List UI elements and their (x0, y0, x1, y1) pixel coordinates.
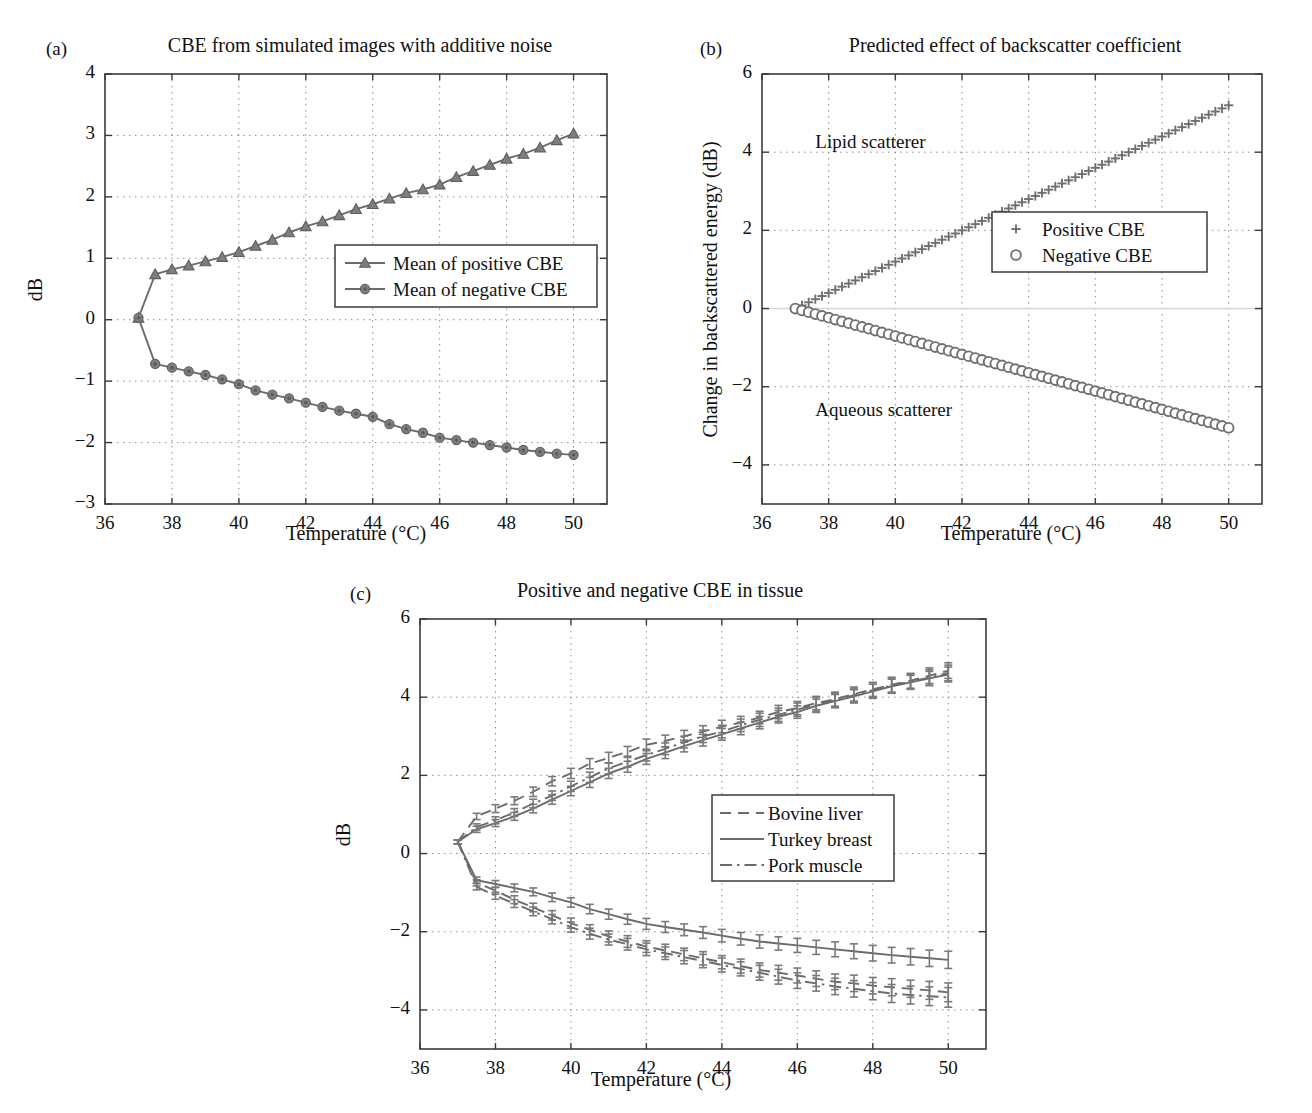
x-tick-label: 50 (550, 512, 598, 534)
x-tick-label: 46 (1071, 512, 1119, 534)
panel-a-title: CBE from simulated images with additive … (110, 34, 610, 57)
y-tick-label: 4 (51, 61, 95, 83)
svg-text:Aqueous scatterer: Aqueous scatterer (815, 399, 952, 420)
y-tick-label: 2 (51, 184, 95, 206)
x-tick-label: 46 (773, 1057, 821, 1079)
svg-text:Mean of negative CBE: Mean of negative CBE (393, 279, 568, 300)
panel-c-label: (c) (350, 583, 371, 605)
x-tick-label: 44 (1005, 512, 1053, 534)
y-tick-label: −1 (51, 368, 95, 390)
x-tick-label: 36 (396, 1057, 444, 1079)
y-tick-label: −4 (708, 452, 752, 474)
panel-c-ylabel: dB (332, 795, 355, 875)
panel-c-title: Positive and negative CBE in tissue (410, 579, 910, 602)
y-tick-label: 0 (51, 307, 95, 329)
x-tick-label: 44 (698, 1057, 746, 1079)
svg-text:Positive CBE: Positive CBE (1042, 219, 1145, 240)
svg-text:Negative CBE: Negative CBE (1042, 245, 1152, 266)
x-tick-label: 38 (805, 512, 853, 534)
y-tick-label: 4 (366, 684, 410, 706)
y-tick-label: −2 (708, 374, 752, 396)
y-tick-label: 6 (366, 606, 410, 628)
panel-b-title: Predicted effect of backscatter coeffici… (765, 34, 1265, 57)
x-tick-label: 42 (622, 1057, 670, 1079)
y-tick-label: 3 (51, 122, 95, 144)
x-tick-label: 50 (924, 1057, 972, 1079)
svg-text:Lipid scatterer: Lipid scatterer (815, 131, 926, 152)
x-tick-label: 36 (738, 512, 786, 534)
panel-b-label: (b) (700, 38, 722, 60)
panel-b-ylabel: Change in backscattered energy (dB) (699, 125, 722, 455)
x-tick-label: 40 (871, 512, 919, 534)
y-tick-label: 2 (708, 217, 752, 239)
x-tick-label: 50 (1205, 512, 1253, 534)
y-tick-label: 6 (708, 61, 752, 83)
svg-text:Pork muscle: Pork muscle (768, 855, 862, 876)
x-tick-label: 36 (81, 512, 129, 534)
svg-text:Mean of positive CBE: Mean of positive CBE (393, 253, 563, 274)
x-tick-label: 38 (148, 512, 196, 534)
panel-a-label: (a) (46, 38, 67, 60)
x-tick-label: 44 (349, 512, 397, 534)
y-tick-label: −4 (366, 997, 410, 1019)
x-tick-label: 46 (416, 512, 464, 534)
x-tick-label: 40 (215, 512, 263, 534)
y-tick-label: 0 (366, 841, 410, 863)
y-tick-label: 2 (366, 762, 410, 784)
y-tick-label: 0 (708, 296, 752, 318)
x-tick-label: 48 (1138, 512, 1186, 534)
y-tick-label: −2 (366, 919, 410, 941)
y-tick-label: −3 (51, 491, 95, 513)
panel-a-ylabel: dB (24, 250, 47, 330)
x-tick-label: 48 (849, 1057, 897, 1079)
y-tick-label: 4 (708, 139, 752, 161)
y-tick-label: −2 (51, 430, 95, 452)
panel-a-plot: Mean of positive CBEMean of negative CBE (0, 60, 660, 520)
x-tick-label: 42 (282, 512, 330, 534)
svg-text:Bovine liver: Bovine liver (768, 803, 863, 824)
svg-text:Turkey breast: Turkey breast (768, 829, 873, 850)
x-tick-label: 42 (938, 512, 986, 534)
x-tick-label: 48 (483, 512, 531, 534)
x-tick-label: 40 (547, 1057, 595, 1079)
y-tick-label: 1 (51, 245, 95, 267)
x-tick-label: 38 (471, 1057, 519, 1079)
